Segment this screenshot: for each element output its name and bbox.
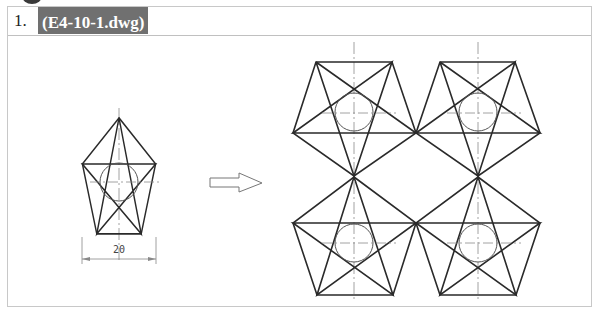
pentagram-bottom-left	[293, 177, 416, 295]
dimension-label: 20	[113, 244, 125, 255]
pentagram-top-left	[293, 62, 416, 176]
source-pentagram: 20	[82, 108, 162, 264]
transform-arrow-icon	[210, 173, 262, 192]
result-pentagram-array	[293, 42, 540, 300]
cad-drawing: 20	[0, 0, 601, 310]
